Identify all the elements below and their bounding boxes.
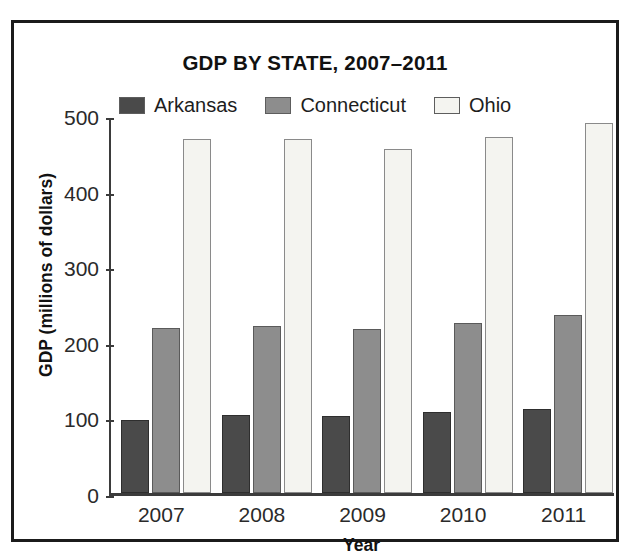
y-tick-label: 500: [64, 106, 99, 130]
legend-item-connecticut: Connecticut: [265, 94, 406, 117]
bar-arkansas-2007: [121, 420, 149, 493]
chart-legend: Arkansas Connecticut Ohio: [119, 91, 589, 119]
bar-arkansas-2011: [523, 409, 551, 493]
x-tick-label-2011: 2011: [513, 503, 614, 527]
y-tick-label: 300: [64, 257, 99, 281]
legend-item-ohio: Ohio: [434, 94, 511, 117]
y-tick: [106, 496, 114, 498]
bar-ohio-2007: [183, 139, 211, 493]
bar-arkansas-2009: [322, 416, 350, 493]
bar-group-2007: 2007: [111, 118, 212, 493]
bar-ohio-2009: [384, 149, 412, 493]
legend-label-arkansas: Arkansas: [154, 94, 237, 117]
x-tick-label-2008: 2008: [212, 503, 313, 527]
bar-arkansas-2010: [423, 412, 451, 493]
y-tick-label: 0: [87, 484, 99, 508]
legend-label-ohio: Ohio: [469, 94, 511, 117]
bar-connecticut-2011: [554, 315, 582, 493]
x-axis-line: [109, 493, 614, 496]
y-tick-label: 100: [64, 408, 99, 432]
bar-groups: 20072008200920102011: [111, 118, 614, 493]
white-swatch-icon: [434, 97, 460, 114]
x-tick-label-2007: 2007: [111, 503, 212, 527]
y-tick-label: 200: [64, 333, 99, 357]
y-tick-label: 400: [64, 182, 99, 206]
x-axis-title: Year: [109, 535, 614, 556]
y-axis-title: GDP (millions of dollars): [36, 173, 57, 377]
bar-group-2008: 2008: [212, 118, 313, 493]
bar-group-2009: 2009: [312, 118, 413, 493]
bar-ohio-2010: [485, 137, 513, 493]
bar-connecticut-2009: [353, 329, 381, 493]
bar-connecticut-2010: [454, 323, 482, 493]
gdp-bar-chart-figure: GDP BY STATE, 2007–2011 Arkansas Connect…: [0, 0, 639, 556]
bar-ohio-2008: [284, 139, 312, 493]
plot-area: 0100200300400500 20072008200920102011: [109, 118, 614, 496]
legend-item-arkansas: Arkansas: [119, 94, 237, 117]
bar-group-2010: 2010: [413, 118, 514, 493]
bar-group-2011: 2011: [513, 118, 614, 493]
bar-arkansas-2008: [222, 415, 250, 493]
bar-ohio-2011: [585, 123, 613, 493]
medium-gray-swatch-icon: [265, 97, 291, 114]
bar-connecticut-2008: [253, 326, 281, 493]
x-tick-label-2010: 2010: [413, 503, 514, 527]
chart-frame: GDP BY STATE, 2007–2011 Arkansas Connect…: [11, 20, 619, 542]
x-tick-label-2009: 2009: [312, 503, 413, 527]
chart-title: GDP BY STATE, 2007–2011: [14, 51, 616, 75]
dark-gray-swatch-icon: [119, 97, 145, 114]
bar-connecticut-2007: [152, 328, 180, 493]
legend-label-connecticut: Connecticut: [300, 94, 406, 117]
